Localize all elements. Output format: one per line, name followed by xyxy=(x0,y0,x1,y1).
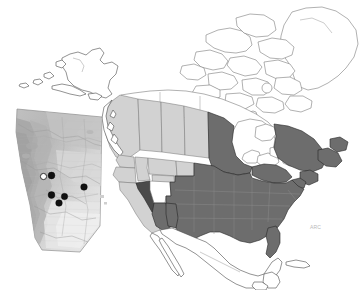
site-marker-filled xyxy=(48,192,55,199)
credit-watermark: ARC xyxy=(310,224,321,230)
site-marker-filled xyxy=(61,193,67,199)
site-marker-filled xyxy=(81,184,88,191)
region-alberta xyxy=(138,99,162,152)
region-north-dakota xyxy=(176,161,194,176)
region-manitoba xyxy=(184,106,209,158)
site-marker-filled xyxy=(48,172,55,179)
site-marker-open xyxy=(40,173,46,179)
map-figure: ARC xyxy=(0,0,362,290)
region-montana xyxy=(148,158,177,176)
region-saskatchewan xyxy=(161,102,185,155)
site-marker-filled xyxy=(56,200,63,207)
map-canvas: ARC xyxy=(0,0,362,290)
